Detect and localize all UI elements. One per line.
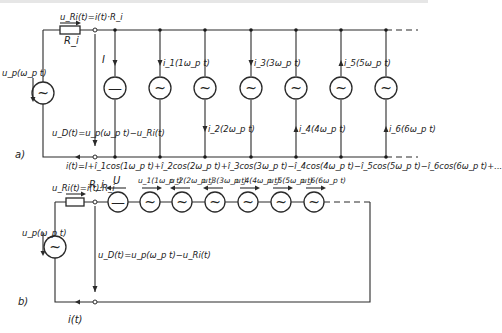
resistor-voltage-label-b: u_Ri(t)=i(t)·R_i: [52, 183, 115, 193]
dc-current-label: I: [102, 55, 105, 65]
resistor-ri-b: [66, 198, 84, 206]
current-label-i1: i_1(1ω_p t): [163, 58, 210, 68]
current-label-i2: i_2(2ω_p t): [208, 124, 255, 134]
current-label-i6: i_6(6ω_p t): [389, 124, 436, 134]
dc-glyph-b: —: [108, 192, 128, 212]
ac-glyph-u4: ~: [238, 192, 258, 212]
dc-glyph-a: —: [105, 78, 125, 98]
resistor-voltage-label-a: u_Ri(t)=i(t)·R_i: [60, 12, 123, 22]
ac-glyph-i2: ~: [195, 78, 215, 98]
ac-glyph-i6: ~: [376, 78, 396, 98]
ac-glyph-u5: ~: [271, 192, 291, 212]
ac-glyph-u6: ~: [304, 192, 324, 212]
part-a-label: a): [15, 150, 25, 160]
source-voltage-label-a: u_p(ω_p t): [2, 68, 46, 78]
current-series-expression: i(t)=I+î_1cos(1ω_p t)+î_2cos(2ω_p t)+î_3…: [66, 161, 502, 171]
ac-glyph-i3: ~: [241, 78, 261, 98]
resistor-ri-a: [60, 26, 80, 34]
source-voltage-label-b: u_p(ω_p t): [22, 228, 66, 238]
terminal-bottom-b: [93, 300, 97, 304]
dc-voltage-label: U: [113, 176, 120, 186]
ac-glyph-i1: ~: [150, 78, 170, 98]
ac-glyph-i5: ~: [331, 78, 351, 98]
diode-voltage-label-a: u_D(t)=u_p(ω_p t)−u_Ri(t): [52, 128, 165, 138]
ac-glyph-i4: ~: [286, 78, 306, 98]
ac-glyph-u1: ~: [140, 192, 160, 212]
current-label-i3: i_3(3ω_p t): [254, 58, 301, 68]
terminal-top-b: [93, 200, 97, 204]
terminal-top-a: [93, 28, 97, 32]
ac-glyph-up-a: ~: [33, 83, 53, 103]
voltage-label-u6: u_6(6ω_p t): [302, 176, 346, 186]
part-b-label: b): [18, 297, 28, 307]
resistor-name-a: R_i: [64, 36, 79, 46]
ac-glyph-u2: ~: [172, 192, 192, 212]
ac-glyph-u3: ~: [205, 192, 225, 212]
diode-voltage-label-b: u_D(t)=u_p(ω_p t)−u_Ri(t): [98, 250, 211, 260]
current-label-i5: i_5(5ω_p t): [344, 58, 391, 68]
resistor-name-b: R_i: [89, 180, 104, 190]
terminal-bottom-a: [93, 155, 97, 159]
ac-glyph-up-b: ~: [45, 237, 65, 257]
current-label-b: i(t): [68, 315, 83, 325]
current-label-i4: i_4(4ω_p t): [299, 124, 346, 134]
